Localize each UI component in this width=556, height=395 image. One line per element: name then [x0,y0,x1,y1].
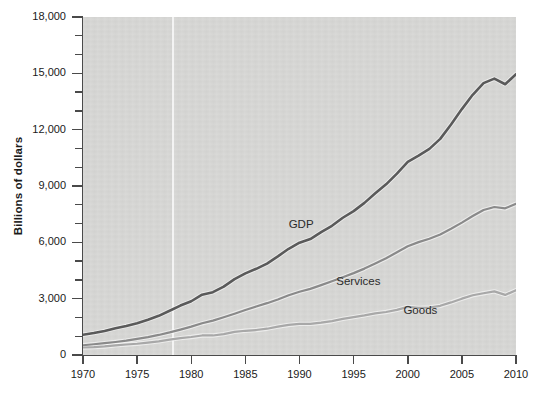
y-tick-minor [75,35,83,36]
x-tick-label: 1975 [107,368,167,380]
y-tick-minor [75,223,83,224]
y-tick-minor [75,54,83,55]
x-tick-label: 1970 [53,368,113,380]
x-tick-label: 1985 [215,368,275,380]
x-tick [299,356,301,364]
x-tick-label: 2005 [432,368,492,380]
y-tick-label: 9,000 [8,179,66,191]
y-tick-minor [75,279,83,280]
y-axis-title-container: Billions of dollars [0,0,26,395]
x-tick [461,356,463,364]
x-tick [191,356,193,364]
series-label-goods: Goods [403,304,437,316]
y-tick-major [72,129,83,131]
y-tick-minor [75,336,83,337]
x-tick-label: 1990 [270,368,330,380]
y-tick-minor [75,148,83,149]
y-tick-major [72,242,83,244]
series-lines-svg [83,17,516,355]
x-tick [245,356,247,364]
x-tick [82,356,84,364]
y-tick-minor [75,167,83,168]
x-tick-label: 1980 [161,368,221,380]
x-tick-label: 2000 [378,368,438,380]
y-tick-label: 3,000 [8,292,66,304]
y-tick-label: 15,000 [8,66,66,78]
series-halo-gdp [83,74,516,335]
x-tick [515,356,517,364]
y-tick-major [72,298,83,300]
x-tick-label: 2010 [486,368,546,380]
y-tick-major [72,73,83,75]
series-line-gdp [83,74,516,335]
x-tick-label: 1995 [324,368,384,380]
y-tick-minor [75,91,83,92]
y-tick-minor [75,260,83,261]
plot-area [83,17,516,355]
x-tick [353,356,355,364]
series-label-gdp: GDP [289,218,314,230]
chart-figure: Billions of dollars 03,0006,0009,00012,0… [0,0,556,395]
y-tick-label: 18,000 [8,10,66,22]
y-tick-label: 12,000 [8,123,66,135]
y-tick-minor [75,317,83,318]
y-tick-label: 6,000 [8,235,66,247]
x-tick [407,356,409,364]
y-tick-label: 0 [8,348,66,360]
y-tick-major [72,16,83,18]
series-label-services: Services [336,275,380,287]
x-tick [136,356,138,364]
y-tick-minor [75,204,83,205]
y-tick-major [72,185,83,187]
y-tick-minor [75,110,83,111]
